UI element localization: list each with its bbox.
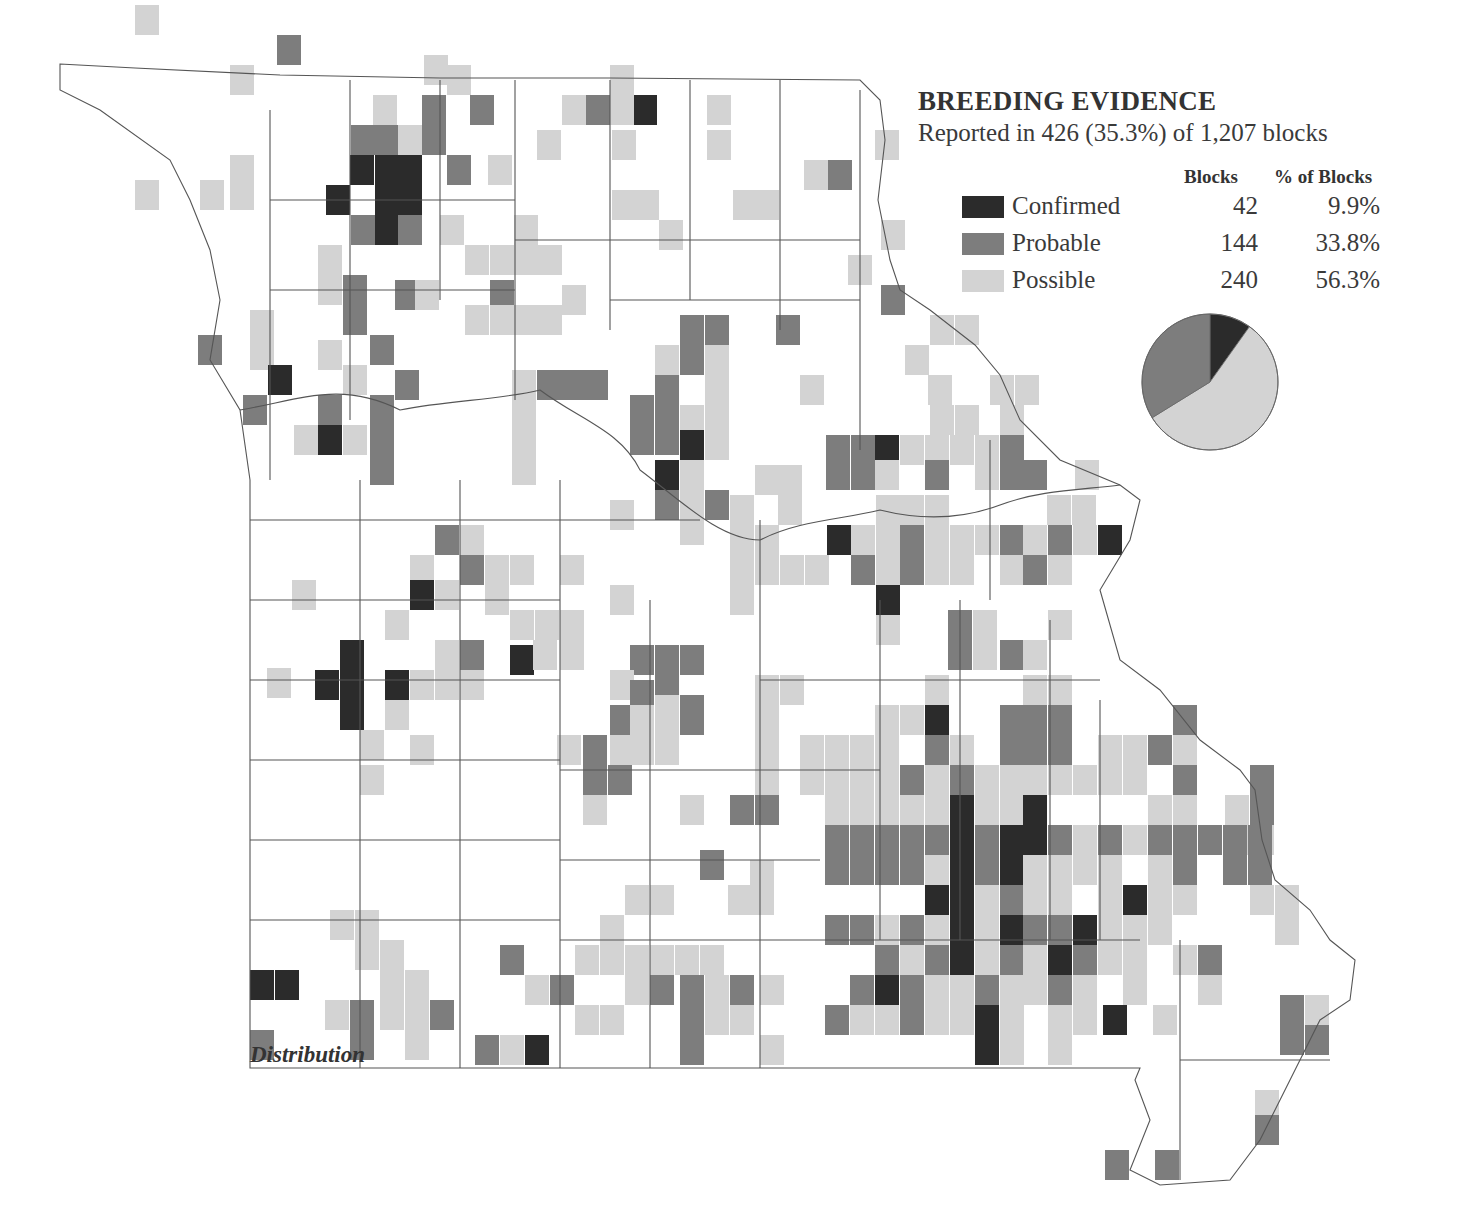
- probable-block: [1173, 765, 1197, 795]
- probable-block: [680, 705, 704, 735]
- possible-block: [533, 640, 557, 670]
- probable-block: [370, 335, 394, 365]
- possible-block: [460, 670, 484, 700]
- confirmed-block: [1023, 795, 1047, 825]
- legend-title: BREEDING EVIDENCE: [918, 86, 1438, 117]
- probable-block: [1000, 945, 1024, 975]
- possible-block: [485, 555, 509, 585]
- possible-block: [655, 705, 679, 735]
- possible-block: [447, 65, 471, 95]
- probable-block: [1000, 640, 1024, 670]
- possible-block: [488, 155, 512, 185]
- possible-block: [730, 525, 754, 555]
- probable-block: [1048, 825, 1072, 855]
- possible-block: [490, 245, 514, 275]
- possible-block: [975, 460, 999, 490]
- probable-block: [583, 735, 607, 765]
- possible-block: [705, 375, 729, 405]
- possible-block: [575, 945, 599, 975]
- possible-block: [728, 885, 752, 915]
- possible-block: [875, 1005, 899, 1035]
- possible-block: [1073, 525, 1097, 555]
- possible-block: [1073, 855, 1097, 885]
- probable-block: [422, 125, 446, 155]
- probable-block: [730, 795, 754, 825]
- possible-block: [625, 975, 649, 1005]
- possible-block: [410, 670, 434, 700]
- possible-block: [950, 525, 974, 555]
- possible-block: [318, 245, 342, 275]
- confirmed-block: [950, 885, 974, 915]
- probable-block: [850, 855, 874, 885]
- possible-block: [925, 795, 949, 825]
- possible-block: [373, 95, 397, 125]
- possible-block: [230, 155, 254, 185]
- possible-block: [655, 345, 679, 375]
- probable-block: [584, 370, 608, 400]
- possible-block: [1000, 1005, 1024, 1035]
- possible-block: [875, 705, 899, 735]
- probable-block: [851, 555, 875, 585]
- legend-subtitle: Reported in 426 (35.3%) of 1,207 blocks: [918, 119, 1438, 147]
- possible-block: [1048, 555, 1072, 585]
- possible-block: [659, 220, 683, 250]
- possible-swatch: [962, 270, 1004, 292]
- possible-block: [405, 970, 429, 1000]
- possible-block: [780, 555, 804, 585]
- possible-block: [360, 730, 384, 760]
- possible-block: [600, 945, 624, 975]
- confirmed-block: [1123, 885, 1147, 915]
- confirmed-block: [950, 825, 974, 855]
- possible-block: [1123, 945, 1147, 975]
- probable-block: [1048, 735, 1072, 765]
- possible-block: [612, 130, 636, 160]
- probable-block: [475, 1035, 499, 1065]
- probable-block: [630, 395, 654, 425]
- possible-block: [135, 180, 159, 210]
- probable-block: [1250, 765, 1274, 795]
- probable-block: [560, 370, 584, 400]
- possible-block: [405, 1000, 429, 1030]
- probable-block: [875, 855, 899, 885]
- possible-block: [612, 190, 636, 220]
- possible-block: [875, 735, 899, 765]
- probable-block: [343, 305, 367, 335]
- confirmed-swatch: [962, 196, 1004, 218]
- probable-block: [680, 1035, 704, 1065]
- possible-block: [1023, 885, 1047, 915]
- possible-block: [650, 885, 674, 915]
- possible-block: [930, 405, 954, 435]
- possible-block: [1198, 975, 1222, 1005]
- confirmed-block: [525, 1035, 549, 1065]
- probable-block: [680, 645, 704, 675]
- possible-block: [1048, 855, 1072, 885]
- possible-block: [435, 640, 459, 670]
- probable-block: [900, 825, 924, 855]
- possible-block: [707, 95, 731, 125]
- possible-block: [675, 945, 699, 975]
- probable-block: [1023, 555, 1047, 585]
- probable-block: [1173, 825, 1197, 855]
- possible-block: [1173, 735, 1197, 765]
- possible-block: [1173, 885, 1197, 915]
- confirmed-block: [1000, 825, 1024, 855]
- probable-block: [586, 95, 610, 125]
- possible-block: [900, 795, 924, 825]
- possible-block: [975, 795, 999, 825]
- possible-block: [398, 125, 422, 155]
- possible-block: [635, 190, 659, 220]
- possible-block: [135, 5, 159, 35]
- possible-block: [1072, 495, 1096, 525]
- confirmed-block: [975, 1035, 999, 1065]
- possible-block: [424, 55, 448, 85]
- possible-block: [440, 215, 464, 245]
- probable-block: [1198, 945, 1222, 975]
- possible-block: [1148, 795, 1172, 825]
- probable-block: [1305, 1025, 1329, 1055]
- probable-block: [398, 215, 422, 245]
- probable-block: [318, 395, 342, 425]
- possible-block: [975, 885, 999, 915]
- possible-block: [1048, 765, 1072, 795]
- probable-block: [680, 315, 704, 345]
- possible-block: [1023, 640, 1047, 670]
